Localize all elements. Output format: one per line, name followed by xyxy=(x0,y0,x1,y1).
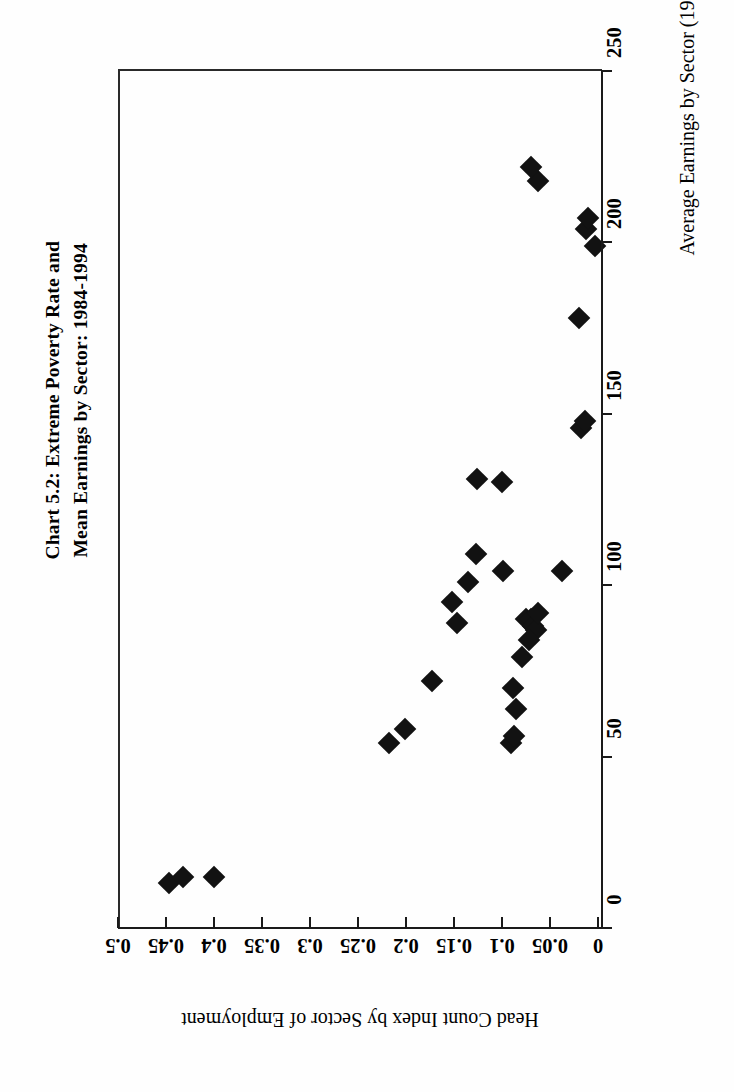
y-axis-tick xyxy=(453,917,455,928)
plot-frame-top-rule xyxy=(118,69,602,71)
x-axis-tick-label: 50 xyxy=(603,698,626,758)
y-axis-tick-label: 0.05 xyxy=(523,934,577,957)
y-axis-tick xyxy=(117,917,119,928)
scatter-point xyxy=(505,697,528,720)
y-axis-tick-label: 0.15 xyxy=(427,934,481,957)
scatter-point xyxy=(203,865,226,888)
plot-frame-left-rule xyxy=(118,69,120,929)
scatter-point xyxy=(567,306,590,329)
scatter-point xyxy=(421,670,444,693)
y-axis-tick xyxy=(501,917,503,928)
scatter-point xyxy=(551,560,574,583)
y-axis-tick-label: 0.4 xyxy=(187,934,241,957)
y-axis-tick-label: 0.35 xyxy=(235,934,289,957)
y-axis-tick-label: 0.25 xyxy=(331,934,385,957)
scatter-point xyxy=(492,560,515,583)
scatter-point xyxy=(377,732,400,755)
y-axis-tick xyxy=(405,917,407,928)
x-axis-tick-label: 200 xyxy=(603,184,626,244)
y-axis-tick-label: 0.2 xyxy=(379,934,433,957)
y-axis-tick xyxy=(597,917,599,928)
plot-area xyxy=(118,69,602,929)
chart-page: Chart 5.2: Extreme Poverty Rate and Mean… xyxy=(0,0,734,1092)
y-axis-tick-label: 0.45 xyxy=(139,934,193,957)
y-axis-tick xyxy=(165,917,167,928)
scatter-point xyxy=(441,591,464,614)
y-axis-tick xyxy=(261,917,263,928)
y-axis-tick xyxy=(213,917,215,928)
figure-canvas: Chart 5.2: Extreme Poverty Rate and Mean… xyxy=(0,0,734,1092)
y-axis-tick-label: 0.1 xyxy=(475,934,529,957)
scatter-point xyxy=(465,543,488,566)
y-axis-tick xyxy=(357,917,359,928)
scatter-point xyxy=(394,718,417,741)
x-axis-tick-label: 100 xyxy=(603,527,626,587)
y-axis-tick xyxy=(549,917,551,928)
y-axis-line xyxy=(118,927,602,929)
x-axis-tick-label: 0 xyxy=(603,870,626,930)
x-axis-label: Average Earnings by Sector (1980 pesos) xyxy=(676,0,699,300)
page-title: Chart 5.2: Extreme Poverty Rate and Mean… xyxy=(39,90,96,710)
scatter-point xyxy=(501,677,524,700)
y-axis-tick-label: 0.3 xyxy=(283,934,337,957)
y-axis-tick xyxy=(309,917,311,928)
x-axis-tick-label: 150 xyxy=(603,355,626,415)
y-axis-label: Head Count Index by Sector of Employment xyxy=(117,1008,603,1031)
scatter-point xyxy=(457,570,480,593)
y-axis-tick-label: 0.5 xyxy=(91,934,145,957)
scatter-point xyxy=(491,471,514,494)
y-axis-tick-label: 0 xyxy=(571,934,625,957)
x-axis-tick-label: 250 xyxy=(603,13,626,73)
scatter-point xyxy=(466,468,489,491)
scatter-point xyxy=(446,612,469,635)
